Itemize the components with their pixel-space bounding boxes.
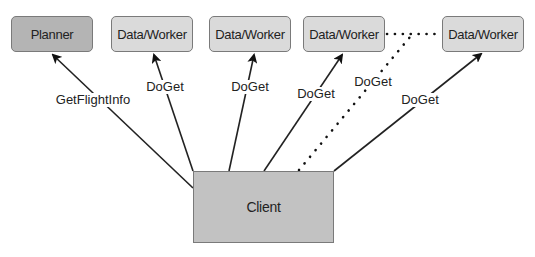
client-label: Client [247, 199, 281, 215]
edge-doget-worker3 [264, 55, 342, 171]
data-worker-label: Data/Worker [448, 27, 517, 42]
planner-label: Planner [31, 27, 74, 42]
edge-label-doget-dotted: DoGet [353, 75, 393, 89]
data-worker-node-3: Data/Worker [303, 16, 385, 52]
data-worker-node-4: Data/Worker [442, 16, 524, 52]
edge-doget-worker2 [229, 55, 254, 171]
edge-label-doget-worker2: DoGet [230, 80, 270, 94]
edge-doget-worker1 [154, 55, 193, 171]
edge-getflightinfo [53, 55, 193, 188]
data-worker-node-1: Data/Worker [111, 16, 193, 52]
planner-node: Planner [11, 16, 93, 52]
edge-doget-worker4 [334, 54, 481, 171]
edge-label-getflightinfo: GetFlightInfo [55, 93, 131, 107]
data-worker-node-2: Data/Worker [209, 16, 291, 52]
edge-label-doget-worker1: DoGet [145, 80, 185, 94]
edge-label-doget-worker4: DoGet [400, 93, 440, 107]
data-worker-label: Data/Worker [215, 27, 284, 42]
edge-label-doget-worker3: DoGet [296, 87, 336, 101]
data-worker-label: Data/Worker [309, 27, 378, 42]
data-worker-label: Data/Worker [117, 27, 186, 42]
client-node: Client [193, 171, 334, 243]
edge-doget-dotted [299, 37, 410, 170]
